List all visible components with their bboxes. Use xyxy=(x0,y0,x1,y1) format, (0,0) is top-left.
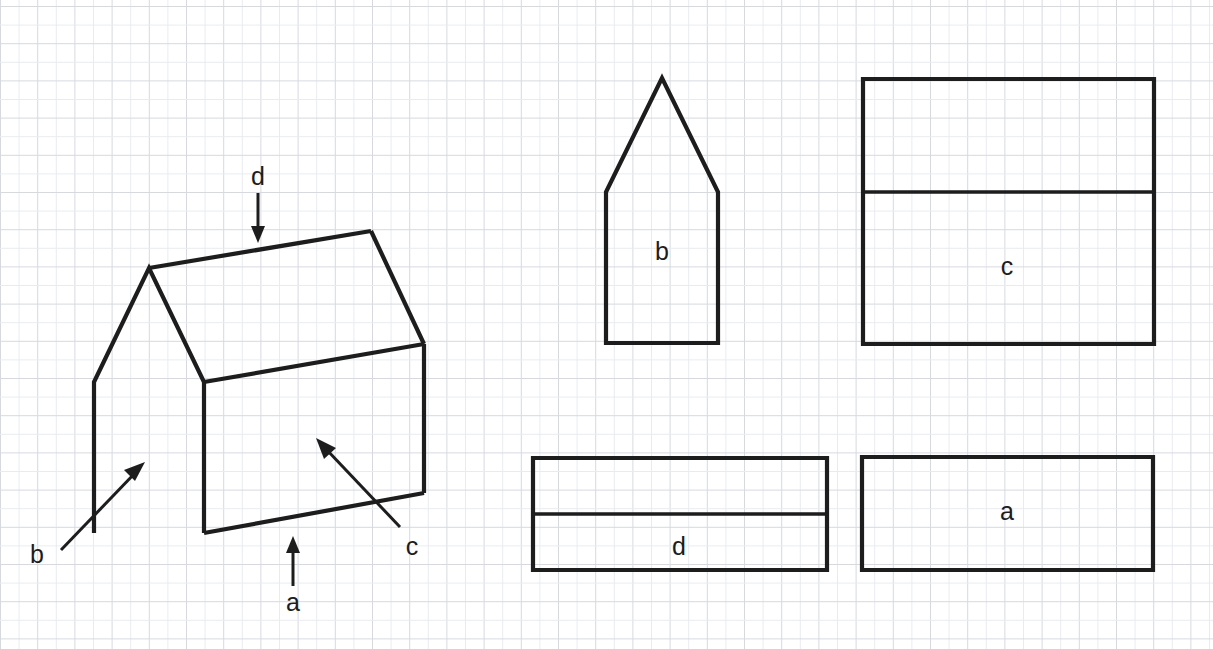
house-isometric-drawing xyxy=(94,231,424,533)
callout-c-label: c xyxy=(406,532,419,560)
shape-c-label: c xyxy=(1001,252,1014,280)
callout-c-line xyxy=(326,449,400,527)
callout-b-line xyxy=(61,472,136,550)
callout-b: b xyxy=(30,462,145,568)
shape-a-label: a xyxy=(1000,497,1014,525)
callout-d-label: d xyxy=(251,162,265,190)
shape-b-label: b xyxy=(655,237,669,265)
shape-a: a xyxy=(862,457,1153,570)
shape-d-label: d xyxy=(672,532,686,560)
callout-b-label: b xyxy=(30,540,44,568)
callout-d-arrowhead-icon xyxy=(251,226,265,243)
callout-a-label: a xyxy=(286,588,300,616)
diagram-svg: dbac bcda xyxy=(0,0,1213,649)
callout-d: d xyxy=(251,162,265,243)
diagram-canvas: dbac bcda xyxy=(0,0,1213,649)
